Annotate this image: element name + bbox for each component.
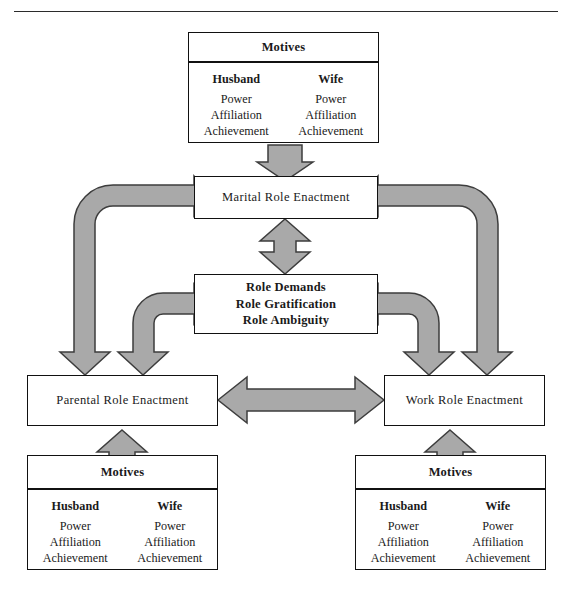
left-motives-husband-column: Husband Power Affiliation Achievement xyxy=(28,499,123,566)
arrow-marital-parental-curved xyxy=(60,176,212,375)
left-motives-wife-achievement: Achievement xyxy=(123,551,218,567)
left-motives-detail-box: Husband Power Affiliation Achievement Wi… xyxy=(27,489,218,570)
top-motives-detail-box: Husband Power Affiliation Achievement Wi… xyxy=(188,62,379,143)
role-demands-stack: Role Demands Role Gratification Role Amb… xyxy=(195,275,377,333)
right-motives-husband-affiliation: Affiliation xyxy=(356,535,451,551)
right-motives-detail-box: Husband Power Affiliation Achievement Wi… xyxy=(355,489,546,570)
top-motives-husband-label: Husband xyxy=(189,72,284,88)
work-role-enactment-label: Work Role Enactment xyxy=(385,376,544,425)
right-motives-wife-achievement: Achievement xyxy=(451,551,546,567)
right-motives-husband-column: Husband Power Affiliation Achievement xyxy=(356,499,451,566)
top-motives-label: Motives xyxy=(189,33,378,61)
arrow-left-motives-to-parental xyxy=(97,430,147,457)
right-motives-wife-affiliation: Affiliation xyxy=(451,535,546,551)
left-motives-husband-label: Husband xyxy=(28,499,123,515)
top-motives-wife-column: Wife Power Affiliation Achievement xyxy=(284,72,379,139)
top-motives-husband-power: Power xyxy=(189,92,284,108)
arrow-parental-work xyxy=(218,377,384,423)
parental-role-enactment-box: Parental Role Enactment xyxy=(27,375,218,426)
left-motives-wife-column: Wife Power Affiliation Achievement xyxy=(123,499,218,566)
top-motives-wife-label: Wife xyxy=(284,72,379,88)
arrow-right-motives-to-work xyxy=(425,430,475,457)
right-motives-husband-power: Power xyxy=(356,519,451,535)
top-motives-husband-achievement: Achievement xyxy=(189,124,284,140)
top-motives-wife-power: Power xyxy=(284,92,379,108)
role-demands-line-2: Role Gratification xyxy=(236,296,336,313)
left-motives-husband-achievement: Achievement xyxy=(28,551,123,567)
role-demands-line-3: Role Ambiguity xyxy=(243,312,330,329)
left-motives-wife-affiliation: Affiliation xyxy=(123,535,218,551)
right-motives-label: Motives xyxy=(356,456,545,488)
top-motives-header-box: Motives xyxy=(188,32,379,62)
left-motives-wife-power: Power xyxy=(123,519,218,535)
left-motives-label: Motives xyxy=(28,456,217,488)
left-motives-husband-affiliation: Affiliation xyxy=(28,535,123,551)
marital-role-enactment-box: Marital Role Enactment xyxy=(194,176,378,219)
marital-role-enactment-label: Marital Role Enactment xyxy=(195,177,377,218)
right-motives-wife-column: Wife Power Affiliation Achievement xyxy=(451,499,546,566)
right-motives-wife-power: Power xyxy=(451,519,546,535)
work-role-enactment-box: Work Role Enactment xyxy=(384,375,545,426)
top-motives-wife-achievement: Achievement xyxy=(284,124,379,140)
left-motives-husband-power: Power xyxy=(28,519,123,535)
parental-role-enactment-label: Parental Role Enactment xyxy=(28,376,217,425)
left-motives-wife-label: Wife xyxy=(123,499,218,515)
right-motives-wife-label: Wife xyxy=(451,499,546,515)
top-motives-wife-affiliation: Affiliation xyxy=(284,108,379,124)
figure-canvas: .arw { fill: #a9a9a9; stroke: #3d3d3d; s… xyxy=(0,0,572,593)
right-motives-husband-achievement: Achievement xyxy=(356,551,451,567)
top-motives-husband-affiliation: Affiliation xyxy=(189,108,284,124)
arrow-marital-roledemands xyxy=(260,219,310,274)
top-motives-husband-column: Husband Power Affiliation Achievement xyxy=(189,72,284,139)
right-motives-header-box: Motives xyxy=(355,455,546,489)
top-horizontal-rule xyxy=(14,11,558,12)
role-demands-line-1: Role Demands xyxy=(246,279,326,296)
right-motives-husband-label: Husband xyxy=(356,499,451,515)
left-motives-header-box: Motives xyxy=(27,455,218,489)
role-demands-box: Role Demands Role Gratification Role Amb… xyxy=(194,274,378,334)
arrow-marital-work-curved xyxy=(360,176,512,375)
